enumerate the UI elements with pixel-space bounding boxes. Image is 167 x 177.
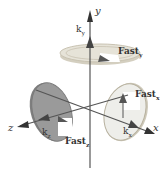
z-axis-arrow-icon — [17, 121, 29, 128]
wave-vector-polarization-diagram: y x z ky kx kz Fasty Fastx Fastz — [0, 0, 167, 177]
y-axis-label: y — [94, 5, 101, 16]
z-axis-label: z — [7, 122, 14, 133]
ky-arrow-icon — [86, 36, 94, 48]
ky-label: ky — [76, 24, 85, 37]
fast-z-label: Fastz — [65, 136, 90, 148]
disk-x — [97, 77, 155, 147]
x-axis-label: x — [153, 122, 159, 133]
y-axis-arrow-icon — [87, 10, 93, 22]
